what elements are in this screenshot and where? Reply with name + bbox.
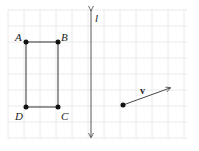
- point-c: [56, 105, 61, 110]
- point-b: [56, 40, 61, 45]
- diagram-svg: l A B C D v: [0, 0, 199, 151]
- diagram-canvas: l A B C D v: [0, 0, 199, 151]
- label-d: D: [14, 110, 23, 122]
- label-b: B: [61, 31, 68, 43]
- vector-v-tail: [121, 103, 126, 108]
- point-a: [24, 40, 29, 45]
- rectangle-abcd: [26, 42, 58, 107]
- point-d: [24, 105, 29, 110]
- label-c: C: [61, 110, 69, 122]
- vector-v-label: v: [140, 85, 145, 96]
- grid: [8, 10, 187, 138]
- label-a: A: [14, 31, 22, 43]
- line-l-label: l: [95, 12, 98, 24]
- vector-v: [123, 88, 170, 105]
